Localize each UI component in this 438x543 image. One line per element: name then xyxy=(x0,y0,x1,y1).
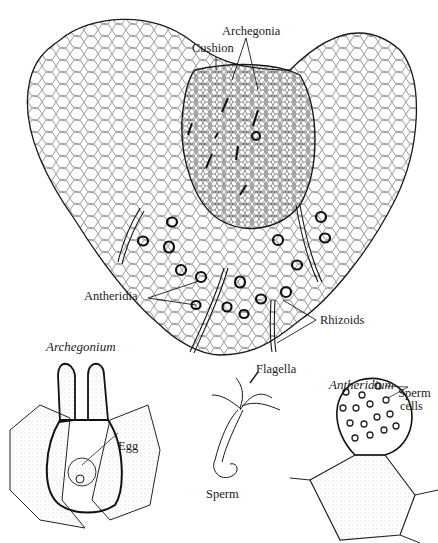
label-cushion: Cushion xyxy=(192,42,234,55)
label-archegonia: Archegonia xyxy=(222,25,280,38)
label-sperm-cells-line1: Sperm xyxy=(398,387,431,400)
label-antheridium-title: Antheridium xyxy=(329,378,394,391)
label-antheridia: Antheridia xyxy=(84,290,137,303)
label-archegonium-title: Archegonium xyxy=(46,340,116,353)
label-sperm-cells-line2: cells xyxy=(400,400,423,413)
label-flagella: Flagella xyxy=(256,363,296,376)
label-egg: Egg xyxy=(118,440,138,453)
label-rhizoids: Rhizoids xyxy=(320,314,364,327)
prothallus-illustration xyxy=(0,0,438,543)
thallus-body xyxy=(27,19,416,355)
label-sperm: Sperm xyxy=(206,488,239,501)
sperm-detail xyxy=(212,372,280,478)
